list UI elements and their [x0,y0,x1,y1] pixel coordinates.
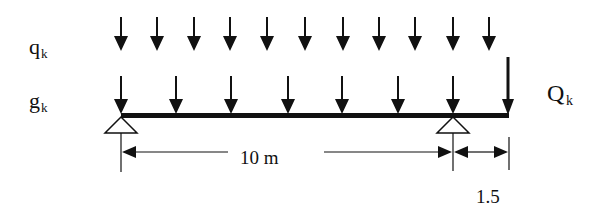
down-arrow-icon [446,76,460,114]
down-arrow-icon [391,76,405,114]
down-arrow-icon [114,17,128,51]
beam [121,113,509,118]
down-arrow-icon [114,76,128,114]
down-arrow-icon [335,76,349,114]
point-load-arrow-icon [502,57,514,115]
svg-text:k: k [41,100,48,115]
down-arrow-icon [298,17,312,51]
down-arrow-icon [446,17,460,51]
down-arrow-icon [223,17,237,51]
down-arrow-icon [336,17,350,51]
down-arrow-icon [224,76,238,114]
down-arrow-icon [408,17,422,51]
down-arrow-icon [169,76,183,114]
beam-diagram: q k g k Q k 10 m 1.5 [0,0,603,217]
svg-text:k: k [41,46,48,61]
permanent-load-arrows [114,76,460,114]
span-length-label: 10 m [240,147,279,168]
variable-load-arrows [114,17,496,51]
down-arrow-icon [372,17,386,51]
svg-text:Q: Q [547,80,564,106]
down-arrow-icon [260,17,274,51]
down-arrow-icon [150,17,164,51]
cantilever-length-label: 1.5 [476,186,500,207]
Q-k-label: Q k [547,80,573,108]
down-arrow-icon [187,17,201,51]
svg-text:k: k [566,93,573,108]
down-arrow-icon [281,76,295,114]
down-arrow-icon [482,17,496,51]
svg-text:g: g [29,88,40,113]
g-k-label: g k [29,88,48,115]
left-support-icon [105,117,137,133]
svg-text:q: q [29,34,40,59]
q-k-label: q k [29,34,48,61]
right-support-icon [437,117,469,133]
